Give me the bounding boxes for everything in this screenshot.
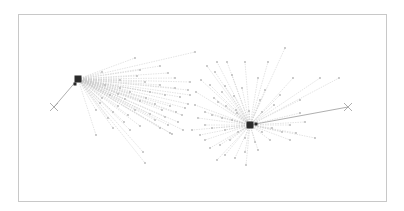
leaf-node [175, 111, 177, 113]
leaf-node [295, 132, 297, 134]
leaf-node [174, 77, 176, 79]
graph-frame [19, 15, 387, 202]
leaf-node [292, 77, 294, 79]
leaf-node [299, 99, 301, 101]
leaf-node [233, 95, 235, 97]
leaf-node [164, 116, 166, 118]
leaf-node [171, 133, 173, 135]
leaf-node [229, 139, 231, 141]
leaf-node [259, 99, 261, 101]
leaf-node [139, 69, 141, 71]
leaf-node [248, 110, 250, 112]
leaf-node [184, 107, 186, 109]
leaf-node [214, 71, 216, 73]
leaf-node [149, 113, 151, 115]
leaf-node [284, 47, 286, 49]
leaf-node [112, 111, 114, 113]
leaf-node [225, 105, 227, 107]
leaf-node [204, 124, 206, 126]
leaf-node [169, 105, 171, 107]
leaf-node [241, 87, 243, 89]
leaf-node [257, 149, 259, 151]
leaf-node [119, 87, 121, 89]
leaf-node [245, 164, 247, 166]
leaf-node [129, 129, 131, 131]
leaf-node [101, 97, 103, 99]
leaf-node [244, 151, 246, 153]
leaf-node [167, 72, 169, 74]
leaf-node [235, 109, 237, 111]
leaf-node [95, 109, 97, 111]
leaf-node [164, 94, 166, 96]
leaf-node [224, 85, 226, 87]
leaf-node [271, 127, 273, 129]
leaf-node [204, 111, 206, 113]
leaf-node [191, 129, 193, 131]
leaf-node [159, 84, 161, 86]
leaf-node [209, 84, 211, 86]
leaf-node [159, 127, 161, 129]
leaf-node [109, 94, 111, 96]
hub-node [75, 76, 82, 83]
leaf-node [167, 124, 169, 126]
leaf-node [99, 102, 101, 104]
leaf-node [107, 117, 109, 119]
leaf-node [319, 77, 321, 79]
leaf-node [224, 129, 226, 131]
leaf-node [221, 91, 223, 93]
leaf-node [145, 97, 147, 99]
leaf-node [95, 134, 97, 136]
network-graph [0, 0, 404, 211]
leaf-node [189, 81, 191, 83]
leaf-node [314, 137, 316, 139]
leaf-node [123, 121, 125, 123]
leaf-node [281, 131, 283, 133]
leaf-node [217, 101, 219, 103]
leaf-node [136, 75, 138, 77]
leaf-node [221, 117, 223, 119]
leaf-node [199, 134, 201, 136]
leaf-node [161, 109, 163, 111]
leaf-node [254, 141, 256, 143]
leaf-node [174, 87, 176, 89]
leaf-node [169, 132, 171, 134]
leaf-node [181, 114, 183, 116]
leaf-node [194, 51, 196, 53]
leaf-node [177, 121, 179, 123]
leaf-node [144, 162, 146, 164]
leaf-node [149, 91, 151, 93]
leaf-node [213, 97, 215, 99]
leaf-node [224, 154, 226, 156]
leaf-node [231, 74, 233, 76]
leaf-node [129, 91, 131, 93]
leaf-node [206, 65, 208, 67]
leaf-node [134, 109, 136, 111]
leaf-node [273, 104, 275, 106]
leaf-node [216, 61, 218, 63]
leaf-node [244, 61, 246, 63]
leaf-node [236, 112, 238, 114]
leaf-node [134, 57, 136, 59]
leaf-node [267, 61, 269, 63]
leaf-node [182, 129, 184, 131]
leaf-node [112, 127, 114, 129]
leaf-node [257, 77, 259, 79]
leaf-node [159, 65, 161, 67]
leaf-node [219, 144, 221, 146]
leaf-node [117, 93, 119, 95]
leaf-node [179, 96, 181, 98]
leaf-node [197, 117, 199, 119]
leaf-node [101, 71, 103, 73]
leaf-node [204, 139, 206, 141]
leaf-node [139, 100, 141, 102]
leaf-node [264, 89, 266, 91]
leaf-node [226, 61, 228, 63]
leaf-node [187, 89, 189, 91]
leaf-node [142, 151, 144, 153]
leaf-node [127, 114, 129, 116]
leaf-node [124, 98, 126, 100]
leaf-node [279, 94, 281, 96]
leaf-node [144, 81, 146, 83]
leaf-node [237, 131, 239, 133]
leaf-node [119, 79, 121, 81]
